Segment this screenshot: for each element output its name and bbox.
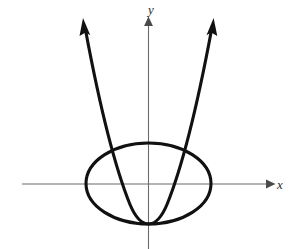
y-axis xyxy=(144,17,153,249)
x-axis-label: x xyxy=(276,177,283,192)
math-figure: x y xyxy=(0,0,298,249)
y-axis-label: y xyxy=(146,2,154,17)
x-axis-arrowhead-icon xyxy=(266,180,276,189)
y-axis-arrowhead-icon xyxy=(144,17,153,27)
figure-canvas: x y xyxy=(0,0,298,249)
